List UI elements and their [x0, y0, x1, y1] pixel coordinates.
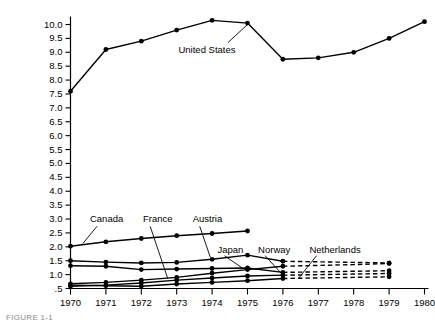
data-point	[210, 271, 215, 276]
y-tick-label: 7.5	[49, 88, 62, 99]
x-tick-label: 1979	[379, 297, 400, 308]
series-leader-line	[265, 256, 283, 275]
figure-caption: FIGURE 1-1	[6, 313, 53, 322]
data-point	[281, 57, 286, 62]
data-point	[210, 266, 215, 271]
data-point	[68, 263, 73, 268]
data-point	[245, 266, 250, 271]
data-point	[139, 284, 144, 289]
data-point	[68, 283, 73, 288]
data-point	[281, 259, 286, 264]
x-tick-label: 1973	[166, 297, 187, 308]
x-tick-label: 1976	[272, 297, 293, 308]
x-tick-label: 1971	[95, 297, 116, 308]
y-tick-label: 9.0	[49, 46, 62, 57]
series-line-projected	[283, 263, 389, 266]
series-label-netherlands: Netherlands	[309, 244, 360, 255]
series-leader-line	[224, 256, 242, 268]
y-tick-label: 1.5	[49, 255, 62, 266]
data-point	[139, 261, 144, 266]
data-point	[139, 267, 144, 272]
x-tick-label: 1975	[237, 297, 258, 308]
data-point	[174, 28, 179, 33]
x-tick-label: 1970	[60, 297, 81, 308]
data-point	[174, 282, 179, 287]
y-tick-label: 4.0	[49, 185, 62, 196]
series-leader-line	[228, 25, 247, 43]
x-tick-label: 1974	[202, 297, 223, 308]
data-point	[281, 276, 286, 281]
y-tick-label: .5	[55, 283, 63, 294]
series-label-norway: Norway	[258, 244, 290, 255]
data-point	[387, 36, 392, 41]
data-point	[245, 253, 250, 258]
data-point	[104, 47, 109, 52]
data-point	[174, 267, 179, 272]
data-point	[245, 229, 250, 234]
data-point	[351, 50, 356, 55]
data-point	[104, 283, 109, 288]
y-tick-label: 2.5	[49, 227, 62, 238]
series-label-austria: Austria	[193, 213, 223, 224]
y-tick-label: 4.5	[49, 171, 62, 182]
y-tick-label: 3.5	[49, 199, 62, 210]
data-point	[422, 19, 427, 24]
x-tick-label: 1972	[131, 297, 152, 308]
data-point	[139, 236, 144, 241]
data-point	[104, 264, 109, 269]
data-point	[174, 233, 179, 238]
y-tick-label: 8.5	[49, 60, 62, 71]
data-point	[387, 261, 392, 266]
series-line-projected	[283, 273, 389, 275]
series-leader-line	[150, 226, 168, 279]
y-tick-label: 9.5	[49, 32, 62, 43]
y-tick-label: 6.0	[49, 130, 62, 141]
y-tick-label: 8.0	[49, 74, 62, 85]
x-tick-label: 1977	[308, 297, 329, 308]
series-label-japan: Japan	[217, 244, 243, 255]
series-line-projected	[283, 271, 389, 273]
data-point	[387, 274, 392, 279]
y-tick-label: 7.0	[49, 102, 62, 113]
y-tick-label: 5.0	[49, 157, 62, 168]
data-point	[245, 274, 250, 279]
data-point	[281, 264, 286, 269]
series-leader-line	[200, 226, 211, 257]
y-tick-label: 6.5	[49, 116, 62, 127]
data-point	[104, 260, 109, 265]
data-point	[210, 18, 215, 23]
x-tick-label: 1980	[414, 297, 435, 308]
data-point	[68, 258, 73, 263]
y-tick-label: 3.0	[49, 213, 62, 224]
data-point	[68, 244, 73, 249]
data-point	[104, 239, 109, 244]
series-label-united-states: United States	[178, 44, 235, 55]
series-line-solid	[71, 20, 425, 91]
x-tick-label: 1978	[343, 297, 364, 308]
data-point	[210, 257, 215, 262]
data-point	[139, 39, 144, 44]
y-tick-label: 2.0	[49, 241, 62, 252]
data-point	[174, 260, 179, 265]
data-point	[210, 276, 215, 281]
data-point	[316, 55, 321, 60]
data-point	[210, 231, 215, 236]
series-leader-line	[83, 226, 97, 243]
series-line-projected	[283, 261, 389, 263]
data-point	[245, 278, 250, 283]
series-label-france: France	[143, 213, 173, 224]
y-tick-label: 10.0	[44, 19, 63, 30]
data-point	[68, 89, 73, 94]
y-tick-label: 5.5	[49, 144, 62, 155]
series-label-canada: Canada	[90, 213, 124, 224]
data-point	[210, 280, 215, 285]
y-tick-label: 1.0	[49, 269, 62, 280]
